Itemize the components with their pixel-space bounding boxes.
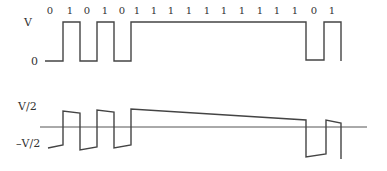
bit-labels: 01010111111111101 (47, 5, 335, 16)
bit-label: 1 (204, 5, 210, 16)
bit-label: 0 (311, 5, 317, 16)
bit-label: 1 (151, 5, 157, 16)
bit-label: 1 (329, 5, 335, 16)
diagram-svg: V 0 01010111111111101 V/2 –V/2 (0, 0, 387, 171)
bit-label: 1 (292, 5, 298, 16)
top-waveform-group: V 0 01010111111111101 (23, 5, 341, 68)
bottom-label-neg-v-half: –V/2 (16, 137, 40, 150)
bit-label: 1 (168, 5, 174, 16)
top-label-v: V (23, 16, 33, 29)
bit-label: 1 (257, 5, 263, 16)
bit-label: 1 (274, 5, 280, 16)
line-coding-diagram: V 0 01010111111111101 V/2 –V/2 (0, 0, 387, 171)
ac-coupled-waveform (48, 109, 341, 159)
bit-label: 1 (134, 5, 140, 16)
bit-label: 1 (102, 5, 108, 16)
bit-label: 1 (186, 5, 192, 16)
bottom-label-v-half: V/2 (17, 100, 37, 113)
nrz-waveform (45, 22, 341, 61)
bit-label: 1 (67, 5, 73, 16)
bit-label: 0 (47, 5, 53, 16)
top-label-zero: 0 (31, 55, 38, 68)
bit-label: 0 (119, 5, 125, 16)
bottom-waveform-group: V/2 –V/2 (16, 100, 367, 159)
bit-label: 0 (84, 5, 90, 16)
bit-label: 1 (221, 5, 227, 16)
bit-label: 1 (239, 5, 245, 16)
